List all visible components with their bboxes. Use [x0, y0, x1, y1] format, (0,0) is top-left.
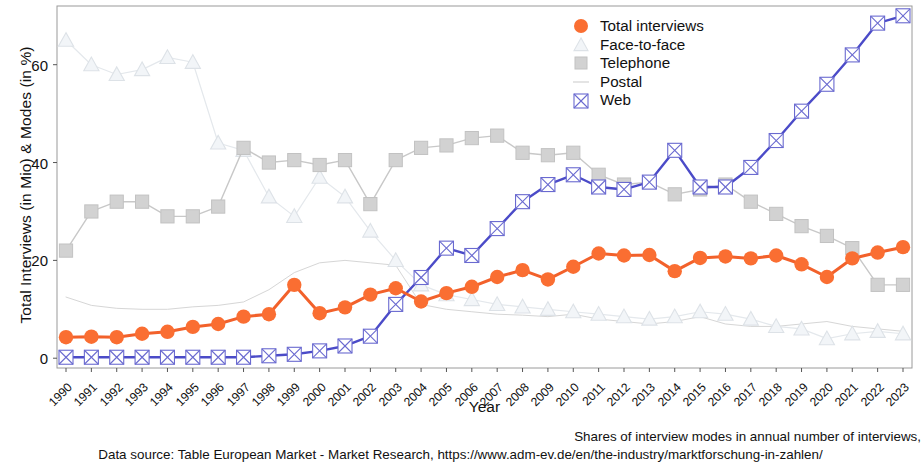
y-tick-label: 20: [31, 252, 48, 269]
y-tick-label: 60: [31, 56, 48, 73]
y-axis-ticks: 0204060: [0, 0, 48, 465]
legend-label: Total interviews: [596, 17, 704, 36]
footer-source: Data source: Table European Market - Mar…: [0, 447, 921, 462]
legend-item: Web: [566, 91, 796, 110]
legend-label: Postal: [596, 73, 642, 92]
legend-item: Postal: [566, 73, 796, 92]
legend-item: Face-to-face: [566, 36, 796, 55]
legend-label: Telephone: [596, 54, 670, 73]
circle-icon: [566, 17, 596, 36]
x-axis-label: Year: [57, 398, 912, 416]
line-icon: [566, 73, 596, 92]
chart-figure: Total Interviews (in Mio) & Modes (in %)…: [0, 0, 921, 465]
legend-label: Web: [596, 91, 631, 110]
y-tick-label: 0: [40, 350, 48, 367]
triangle-icon: [566, 36, 596, 55]
legend-item: Telephone: [566, 54, 796, 73]
square-x-icon: [566, 91, 596, 110]
legend-item: Total interviews: [566, 17, 796, 36]
square-icon: [566, 54, 596, 73]
footer-note: Shares of interview modes in annual numb…: [0, 429, 921, 444]
legend-label: Face-to-face: [596, 36, 685, 55]
y-tick-label: 40: [31, 154, 48, 171]
chart-legend: Total interviewsFace-to-faceTelephonePos…: [566, 17, 796, 110]
